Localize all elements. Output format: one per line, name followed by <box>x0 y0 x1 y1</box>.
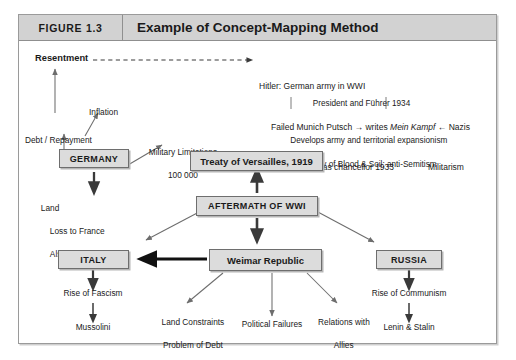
node-italy-label: ITALY <box>80 255 106 265</box>
figure-frame: FIGURE 1.3 Example of Concept-Mapping Me… <box>18 14 497 344</box>
label-resentment: Resentment <box>35 53 88 65</box>
land-constraints-line2: Problem of Debt <box>163 340 223 350</box>
label-rise-of-communism: Rise of Communism <box>358 288 460 300</box>
node-russia-label: RUSSIA <box>391 255 427 265</box>
node-weimar-republic[interactable]: Weimar Republic <box>209 249 322 271</box>
figure-title: Example of Concept-Mapping Method <box>123 20 496 35</box>
node-italy[interactable]: ITALY <box>58 250 129 269</box>
label-mussolini: Mussolini <box>43 322 143 334</box>
label-lenin-stalin: Lenin & Stalin <box>358 322 460 334</box>
label-debt-repayment: Debt / Repayment <box>25 135 92 147</box>
label-inflation: Inflation <box>89 107 118 119</box>
connector-weimar-to-relations <box>307 273 337 303</box>
connector-aftermath-to-russia <box>316 211 374 242</box>
figure-header: FIGURE 1.3 Example of Concept-Mapping Me… <box>19 15 496 41</box>
node-weimar-label: Weimar Republic <box>227 255 304 266</box>
node-treaty-label: Treaty of Versailles, 1919 <box>200 156 313 167</box>
connector-aftermath-to-italy <box>146 211 201 240</box>
node-aftermath-of-wwi[interactable]: AFTERMATH OF WWI <box>196 196 318 216</box>
land-constraints-line1: Land Constraints <box>162 317 225 327</box>
military-limitations-line2: 100 000 <box>168 170 198 180</box>
node-russia[interactable]: RUSSIA <box>376 250 442 269</box>
label-president-fuhrer: President and Führer 1934 <box>259 98 464 110</box>
land-line1: Land <box>41 203 59 213</box>
hitler-line-1: Hitler: German army in WWI <box>259 80 470 94</box>
relations-line2: Allies <box>334 340 354 350</box>
hitler-line-5: Develops army and territorial expansioni… <box>290 136 447 145</box>
concept-map-canvas: Hitler (dashed) --> Resentment (long ver… <box>19 41 496 345</box>
connector-weimar-to-land-constraints <box>187 273 223 303</box>
node-germany-label: GERMANY <box>70 154 118 164</box>
label-rise-of-fascism: Rise of Fascism <box>43 288 143 300</box>
label-land-constraints: Land Constraints Problem of Debt <box>131 305 241 360</box>
node-germany[interactable]: GERMANY <box>59 149 129 168</box>
node-treaty-of-versailles[interactable]: Treaty of Versailles, 1919 <box>190 151 323 171</box>
land-line2: Loss to France <box>41 226 105 238</box>
node-aftermath-label: AFTERMATH OF WWI <box>208 201 306 211</box>
figure-number: FIGURE 1.3 <box>19 15 123 40</box>
